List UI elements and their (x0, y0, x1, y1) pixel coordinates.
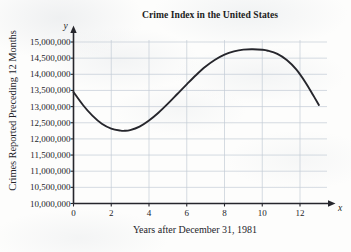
crime-index-chart: Crime Index in the United States Crimes … (0, 0, 351, 252)
data-curve-0 (74, 49, 319, 131)
data-curve-group (74, 49, 319, 131)
y-axis-arrowhead (70, 26, 76, 34)
tick-marks (71, 42, 301, 207)
axis-lines (70, 26, 335, 207)
x-axis-arrowhead (328, 200, 336, 206)
grid-lines (74, 40, 328, 204)
chart-plot-area (0, 0, 351, 252)
